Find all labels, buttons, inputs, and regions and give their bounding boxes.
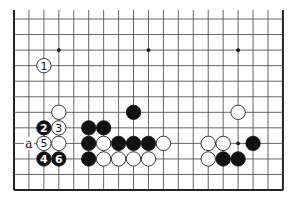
white-stone-icon <box>52 136 66 150</box>
black-stone-icon <box>82 152 96 166</box>
black-stone-icon <box>246 136 260 150</box>
black-stone <box>111 136 125 150</box>
black-stone-icon <box>126 136 140 150</box>
white-stone-icon <box>52 105 66 119</box>
move-number: 3 <box>55 122 62 135</box>
white-stone <box>96 152 110 166</box>
go-board: a 123546 <box>0 0 291 202</box>
white-stone <box>126 152 140 166</box>
point-label: a <box>25 137 32 151</box>
white-stone-icon <box>111 152 125 166</box>
white-stone-icon <box>156 136 170 150</box>
white-stone-icon <box>201 152 215 166</box>
white-stone <box>96 136 110 150</box>
black-stone <box>216 152 230 166</box>
black-stone-icon <box>231 152 245 166</box>
white-stone-icon <box>96 152 110 166</box>
move-number: 1 <box>40 60 47 73</box>
black-stone <box>246 136 260 150</box>
star-point <box>57 48 61 52</box>
black-stone-move-6: 6 <box>52 152 66 166</box>
white-stone-icon <box>216 136 230 150</box>
black-stone <box>82 136 96 150</box>
white-stone-icon <box>141 152 155 166</box>
white-stone <box>141 152 155 166</box>
black-stone-icon <box>126 105 140 119</box>
black-stone <box>82 152 96 166</box>
black-stone <box>126 105 140 119</box>
star-point <box>236 142 240 146</box>
black-stone <box>96 121 110 135</box>
black-stone <box>126 136 140 150</box>
black-stone <box>231 152 245 166</box>
white-stone <box>216 136 230 150</box>
black-stone-icon <box>82 136 96 150</box>
white-stone <box>201 152 215 166</box>
black-stone <box>141 136 155 150</box>
white-stone-icon <box>126 152 140 166</box>
white-stone <box>201 136 215 150</box>
black-stone-icon <box>216 152 230 166</box>
black-stone-move-2: 2 <box>37 121 51 135</box>
black-stone-icon <box>96 121 110 135</box>
black-stone-icon <box>141 136 155 150</box>
move-number: 5 <box>40 137 47 150</box>
white-stone-icon <box>231 105 245 119</box>
move-number: 4 <box>40 153 48 166</box>
move-number: 2 <box>40 122 48 135</box>
go-board-diagram: a 123546 <box>0 0 291 202</box>
white-stone-icon <box>201 136 215 150</box>
white-stone <box>111 152 125 166</box>
white-stone-move-5: 5 <box>37 136 51 150</box>
move-number: 6 <box>55 153 63 166</box>
white-stone <box>231 105 245 119</box>
white-stone-move-3: 3 <box>52 121 66 135</box>
star-point <box>236 48 240 52</box>
black-stone-icon <box>111 136 125 150</box>
white-stone-icon <box>96 136 110 150</box>
white-stone <box>156 136 170 150</box>
black-stone-icon <box>82 121 96 135</box>
point-labels: a <box>24 137 34 151</box>
white-stone <box>52 105 66 119</box>
black-stone <box>82 121 96 135</box>
white-stone <box>52 136 66 150</box>
black-stone-move-4: 4 <box>37 152 51 166</box>
white-stone-move-1: 1 <box>37 58 51 72</box>
star-point <box>147 48 151 52</box>
